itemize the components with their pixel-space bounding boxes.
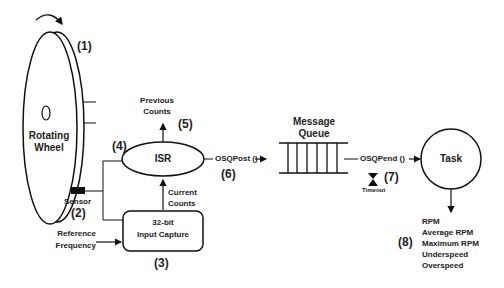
queue-label-line1: Message <box>284 116 344 127</box>
output-item: Overspeed <box>422 262 463 271</box>
isr-number: (4) <box>112 140 127 153</box>
wheel-hub <box>42 106 50 120</box>
hourglass-icon <box>368 173 378 186</box>
task-label: Task <box>428 153 474 164</box>
reference-label-line2: Frequency <box>52 242 96 251</box>
osqpend-number: (7) <box>384 171 399 184</box>
previous-counts-number: (5) <box>178 118 193 131</box>
current-counts-line1: Current <box>168 189 197 198</box>
timeout-label: Timeout <box>362 187 385 194</box>
wheel-label-line1: Rotating <box>20 130 78 141</box>
input-capture-number: (3) <box>154 257 169 270</box>
rpm-measurement-diagram: (1) Rotating Wheel Sensor (2) Reference … <box>0 0 504 288</box>
output-item: Average RPM <box>422 229 473 238</box>
previous-counts-line1: Previous <box>134 97 180 106</box>
output-item: Underspeed <box>422 251 468 260</box>
previous-counts-line2: Counts <box>134 108 180 117</box>
output-item: Maximum RPM <box>422 240 479 249</box>
wheel-number: (1) <box>77 40 92 53</box>
queue-label-line2: Queue <box>284 128 344 139</box>
outputs-number: (8) <box>398 236 413 249</box>
isr-label: ISR <box>140 153 186 164</box>
sensor-number: (2) <box>71 207 86 220</box>
current-counts-line2: Counts <box>168 200 196 209</box>
input-capture-label-line2: Input Capture <box>123 231 203 240</box>
osqpend-label: OSQPend () <box>360 155 405 164</box>
output-item: RPM <box>422 218 440 227</box>
reference-label-line1: Reference <box>52 230 96 239</box>
wheel-face <box>23 32 77 224</box>
osqpost-number: (6) <box>221 168 236 181</box>
rotation-arrow-icon <box>36 15 62 24</box>
wheel-label-line2: Wheel <box>20 142 78 153</box>
sensor-block <box>71 187 85 194</box>
message-queue-graphic <box>279 143 348 173</box>
input-capture-label-line1: 32-bit <box>123 219 203 228</box>
osqpost-label: OSQPost () <box>215 155 258 164</box>
